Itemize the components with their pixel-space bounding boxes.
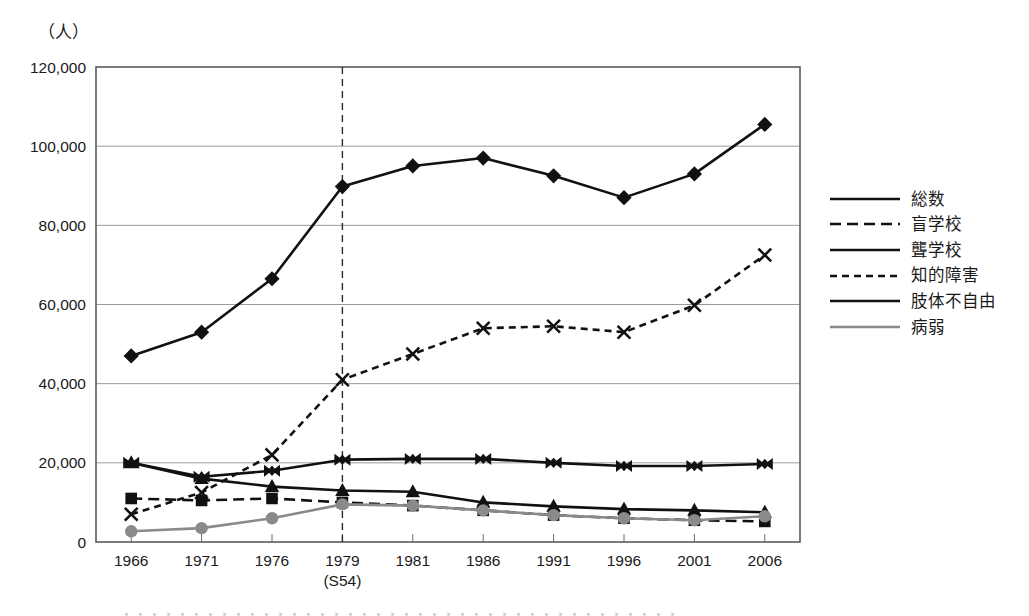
series-line bbox=[131, 504, 765, 531]
circle-marker bbox=[125, 525, 137, 537]
data-point bbox=[616, 460, 632, 472]
series-病弱 bbox=[125, 498, 771, 537]
x-axis-tick-label: 1966 bbox=[114, 552, 148, 569]
data-point bbox=[547, 509, 559, 521]
legend-key bbox=[828, 189, 902, 209]
series-line bbox=[131, 459, 765, 477]
legend-item-知的障害[interactable]: 知的障害 bbox=[828, 263, 1028, 289]
series-line bbox=[131, 463, 765, 512]
circle-marker bbox=[407, 499, 419, 511]
y-axis-tick-label: 100,000 bbox=[30, 138, 86, 155]
y-axis-tick-label: 120,000 bbox=[30, 59, 86, 76]
data-point bbox=[688, 299, 701, 312]
data-point bbox=[125, 493, 137, 505]
data-point bbox=[195, 522, 207, 534]
diamond-marker bbox=[546, 168, 561, 183]
x-axis-tick-label: 1991 bbox=[536, 552, 570, 569]
x-axis-tick-label: 1979 bbox=[325, 552, 359, 569]
legend-item-label: 聾学校 bbox=[902, 242, 962, 259]
data-point bbox=[686, 460, 702, 472]
legend-key bbox=[828, 317, 902, 337]
y-axis-tick-label: 60,000 bbox=[39, 296, 87, 313]
x-axis-sub-label: (S54) bbox=[323, 572, 361, 589]
circle-marker bbox=[195, 522, 207, 534]
diamond-marker bbox=[405, 158, 420, 173]
square-marker bbox=[125, 493, 137, 505]
data-point bbox=[477, 504, 489, 516]
diamond-marker bbox=[124, 348, 139, 363]
legend-item-病弱[interactable]: 病弱 bbox=[828, 314, 1028, 340]
data-point bbox=[124, 348, 139, 363]
data-point bbox=[266, 512, 278, 524]
data-point bbox=[334, 454, 350, 466]
x-axis-tick-label: 1976 bbox=[255, 552, 289, 569]
y-axis-tick-label: 80,000 bbox=[39, 217, 87, 234]
diamond-marker bbox=[476, 150, 491, 165]
diamond-marker bbox=[616, 190, 631, 205]
legend-item-総数[interactable]: 総数 bbox=[828, 186, 1028, 212]
data-point bbox=[266, 449, 279, 462]
series-line bbox=[131, 124, 765, 356]
bowtie-marker bbox=[760, 459, 769, 469]
data-point bbox=[125, 508, 138, 521]
legend-item-label: 知的障害 bbox=[902, 267, 979, 284]
circle-marker bbox=[477, 504, 489, 516]
y-axis-tick-label: 20,000 bbox=[39, 454, 87, 471]
legend-item-label: 肢体不自由 bbox=[902, 293, 996, 310]
legend-item-聾学校[interactable]: 聾学校 bbox=[828, 237, 1028, 263]
footer-caption: ・・・・・・・・・・・・・・・・・・・・・・・・・・・・・・・・・・・・・・・・ bbox=[120, 604, 820, 616]
data-point bbox=[546, 168, 561, 183]
data-point bbox=[616, 190, 631, 205]
chart-page: （人） 020,00040,00060,00080,000100,000120,… bbox=[0, 0, 1029, 616]
x-axis-tick-label: 1996 bbox=[607, 552, 641, 569]
data-point bbox=[546, 457, 562, 469]
y-axis-tick-label: 0 bbox=[77, 534, 86, 551]
x-axis-tick-label: 2006 bbox=[748, 552, 782, 569]
data-point bbox=[758, 249, 771, 262]
circle-marker bbox=[688, 514, 700, 526]
bowtie-marker bbox=[267, 466, 276, 476]
data-point bbox=[405, 158, 420, 173]
legend-item-盲学校[interactable]: 盲学校 bbox=[828, 212, 1028, 238]
legend-key bbox=[828, 240, 902, 260]
data-point bbox=[618, 512, 630, 524]
bowtie-marker bbox=[549, 458, 558, 468]
x-axis-tick-label: 1971 bbox=[184, 552, 218, 569]
x-axis-tick-label: 1986 bbox=[466, 552, 500, 569]
data-point bbox=[336, 498, 348, 510]
legend-key bbox=[828, 214, 902, 234]
circle-marker bbox=[336, 498, 348, 510]
circle-marker bbox=[759, 510, 771, 522]
legend-key bbox=[828, 291, 902, 311]
square-marker bbox=[266, 493, 278, 505]
circle-marker bbox=[618, 512, 630, 524]
circle-marker bbox=[266, 512, 278, 524]
legend-item-肢体不自由[interactable]: 肢体不自由 bbox=[828, 288, 1028, 314]
legend-item-label: 総数 bbox=[902, 191, 945, 208]
circle-marker bbox=[547, 509, 559, 521]
y-axis-tick-label: 40,000 bbox=[39, 375, 87, 392]
legend-key bbox=[828, 266, 902, 286]
chart-legend: 総数盲学校聾学校知的障害肢体不自由病弱 bbox=[828, 186, 1028, 340]
data-point bbox=[406, 348, 419, 361]
data-point bbox=[476, 150, 491, 165]
x-axis-tick-label: 2001 bbox=[677, 552, 711, 569]
data-point bbox=[125, 525, 137, 537]
series-肢体不自由 bbox=[123, 453, 773, 483]
data-point bbox=[264, 465, 280, 477]
data-point bbox=[759, 510, 771, 522]
data-point bbox=[688, 514, 700, 526]
legend-item-label: 病弱 bbox=[902, 319, 945, 336]
data-point bbox=[757, 458, 773, 470]
x-axis-tick-label: 1981 bbox=[396, 552, 430, 569]
data-point bbox=[407, 499, 419, 511]
data-point bbox=[266, 493, 278, 505]
data-point bbox=[194, 471, 210, 483]
legend-item-label: 盲学校 bbox=[902, 216, 962, 233]
series-総数 bbox=[124, 117, 773, 364]
